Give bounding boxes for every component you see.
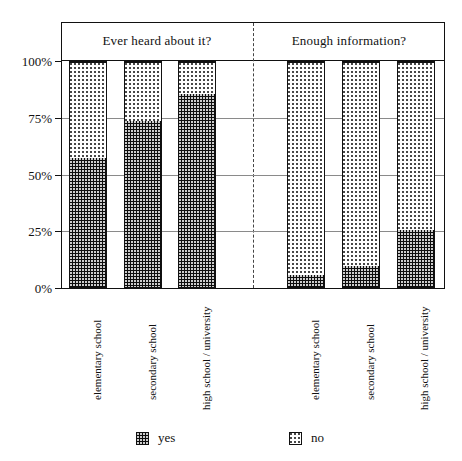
bar-segment-no xyxy=(125,62,161,121)
bar-segment-no xyxy=(70,62,106,158)
bar-segment-yes xyxy=(179,94,215,287)
y-tick-label-0: 0% xyxy=(8,282,52,295)
x-label-right-highschool: high school / university xyxy=(419,306,430,410)
bar-left-secondary xyxy=(124,61,162,288)
bar-segment-yes xyxy=(398,230,434,287)
gridline-50 xyxy=(62,175,444,176)
y-tick-label-100: 100% xyxy=(8,55,52,68)
chart-canvas: 100% 75% 50% 25% 0% Ever heard about it?… xyxy=(0,0,462,461)
bar-segment-no xyxy=(288,62,324,275)
x-label-left-secondary: secondary school xyxy=(147,324,158,400)
gridline-75 xyxy=(62,118,444,119)
legend-item-no: no xyxy=(289,430,324,446)
x-label-right-secondary: secondary school xyxy=(365,324,376,400)
panel-header-right: Enough information? xyxy=(253,22,445,61)
bar-right-highschool xyxy=(397,61,435,288)
bar-right-secondary xyxy=(342,61,380,288)
bar-left-elementary xyxy=(69,61,107,288)
bar-segment-no xyxy=(398,62,434,230)
bar-segment-yes xyxy=(288,275,324,287)
x-label-right-elementary: elementary school xyxy=(310,320,321,400)
y-tick-label-50: 50% xyxy=(8,169,52,182)
legend-swatch-yes-icon xyxy=(136,432,149,445)
legend-item-yes: yes xyxy=(136,430,175,446)
bar-segment-no xyxy=(179,62,215,94)
legend-label-no: no xyxy=(311,430,324,446)
bar-segment-yes xyxy=(70,158,106,287)
bar-left-highschool xyxy=(178,61,216,288)
legend-label-yes: yes xyxy=(158,430,175,446)
x-label-left-elementary: elementary school xyxy=(92,320,103,400)
x-label-left-highschool: high school / university xyxy=(201,306,212,410)
panel-header-left: Ever heard about it? xyxy=(61,22,253,61)
legend-swatch-no-icon xyxy=(289,432,302,445)
bar-right-elementary xyxy=(287,61,325,288)
bar-segment-yes xyxy=(125,121,161,287)
bar-segment-yes xyxy=(343,266,379,287)
y-tick-label-25: 25% xyxy=(8,225,52,238)
y-tick-label-75: 75% xyxy=(8,112,52,125)
gridline-25 xyxy=(62,231,444,232)
panel-divider xyxy=(253,23,254,288)
bar-segment-no xyxy=(343,62,379,266)
